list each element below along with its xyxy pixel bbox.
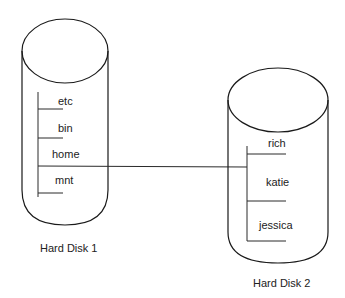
hard-disk-2: rich katie jessica Hard Disk 2 xyxy=(228,68,328,289)
disk2-label: Hard Disk 2 xyxy=(253,277,310,289)
hard-disk-1: etc bin home mnt Hard Disk 1 xyxy=(22,19,108,254)
dir-rich: rich xyxy=(268,137,286,149)
disk1-directory-tree: etc bin home mnt xyxy=(38,92,80,197)
disk1-label: Hard Disk 1 xyxy=(40,242,97,254)
filesystem-mount-diagram: etc bin home mnt Hard Disk 1 rich katie … xyxy=(0,0,345,298)
dir-mnt: mnt xyxy=(55,174,73,186)
mount-connector-line xyxy=(38,166,247,167)
disk1-top-ellipse xyxy=(22,19,108,83)
disk2-directory-tree: rich katie jessica xyxy=(247,137,294,241)
disk1-body xyxy=(22,51,108,225)
dir-jessica: jessica xyxy=(258,219,294,231)
dir-etc: etc xyxy=(58,95,73,107)
dir-home: home xyxy=(52,148,80,160)
dir-bin: bin xyxy=(58,122,73,134)
disk2-top-ellipse xyxy=(228,68,328,132)
dir-katie: katie xyxy=(266,176,289,188)
